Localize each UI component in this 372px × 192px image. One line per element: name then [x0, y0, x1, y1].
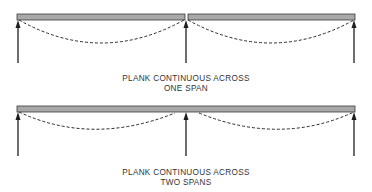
caption-one-span: PLANK CONTINUOUS ACROSS ONE SPAN	[0, 74, 372, 94]
caption-two-spans: PLANK CONTINUOUS ACROSS TWO SPANS	[0, 168, 372, 188]
up-arrow-icon	[352, 20, 357, 63]
deflection-curve-right	[188, 20, 354, 43]
caption-line-1: PLANK CONTINUOUS ACROSS	[0, 168, 372, 178]
diagram-one-span: PLANK CONTINUOUS ACROSS ONE SPAN	[0, 0, 372, 96]
caption-line-1: PLANK CONTINUOUS ACROSS	[0, 74, 372, 84]
up-arrow-icon	[352, 112, 357, 156]
plank-continuous	[17, 106, 355, 112]
up-arrow-icon	[16, 112, 21, 156]
deflection-curve-right	[199, 112, 354, 129]
deflection-curve-left	[19, 20, 184, 43]
caption-line-2: ONE SPAN	[0, 84, 372, 94]
deflection-curve-left	[19, 112, 175, 129]
caption-line-2: TWO SPANS	[0, 178, 372, 188]
diagram-two-spans: PLANK CONTINUOUS ACROSS TWO SPANS	[0, 96, 372, 192]
plank-left	[17, 14, 185, 20]
plank-right	[188, 14, 355, 20]
up-arrow-icon	[16, 20, 21, 63]
up-arrow-icon	[184, 20, 189, 63]
up-arrow-icon	[184, 112, 189, 156]
